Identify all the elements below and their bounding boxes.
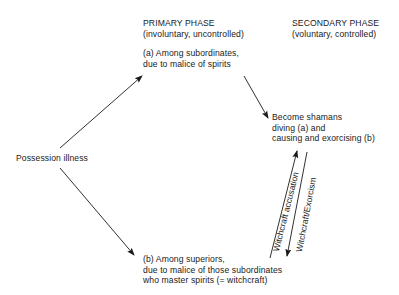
- secondary-phase-subtitle: (voluntary, controlled): [292, 29, 379, 40]
- node-superiors-line-2: due to malice of those subordinates: [143, 265, 282, 276]
- secondary-phase-header: SECONDARY PHASE (voluntary, controlled): [292, 18, 379, 39]
- node-shamans-line-1: Become shamans: [272, 112, 375, 123]
- node-superiors-line-1: (b) Among superiors,: [143, 254, 282, 265]
- arrow-possession-to-superiors: [60, 168, 134, 255]
- node-possession-illness: Possession illness: [16, 153, 88, 164]
- node-subordinates-line-2: due to malice of spirits: [143, 59, 239, 70]
- node-shamans-line-2: diving (a) and: [272, 123, 375, 134]
- arrow-possession-to-subordinates: [60, 76, 142, 148]
- node-superiors-line-3: who master spirits (= witchcraft): [143, 275, 282, 286]
- secondary-phase-title: SECONDARY PHASE: [292, 18, 379, 29]
- node-subordinates-line-1: (a) Among subordinates,: [143, 48, 239, 59]
- arrows-layer: [0, 0, 399, 295]
- primary-phase-header: PRIMARY PHASE (involuntary, uncontrolled…: [143, 18, 244, 39]
- arrow-subordinates-to-shamans: [244, 76, 268, 118]
- node-shamans: Become shamans diving (a) and causing an…: [272, 112, 375, 144]
- node-superiors: (b) Among superiors, due to malice of th…: [143, 254, 282, 286]
- primary-phase-subtitle: (involuntary, uncontrolled): [143, 29, 244, 40]
- node-shamans-line-3: causing and exorcising (b): [272, 133, 375, 144]
- diagram-canvas: PRIMARY PHASE (involuntary, uncontrolled…: [0, 0, 399, 295]
- node-subordinates: (a) Among subordinates, due to malice of…: [143, 48, 239, 69]
- primary-phase-title: PRIMARY PHASE: [143, 18, 244, 29]
